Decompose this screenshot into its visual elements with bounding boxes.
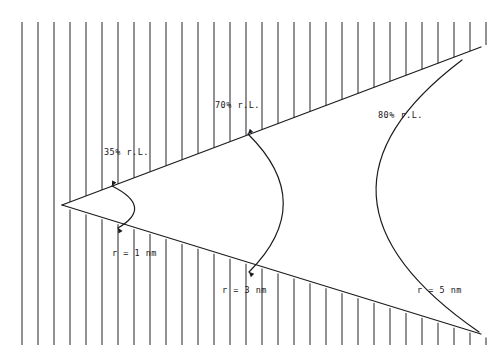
label-percent-70: 70% r.L. — [215, 100, 260, 110]
cone-lower-edge — [62, 205, 481, 334]
label-radius-1: r = 1 nm — [112, 248, 157, 258]
figure-canvas — [0, 0, 496, 363]
label-radius-5: r = 5 nm — [417, 285, 462, 295]
cone-upper-edge — [62, 47, 481, 205]
contour-arc-70 — [248, 134, 283, 272]
label-percent-80: 80% r.L. — [378, 110, 423, 120]
hatch-region-upper — [22, 22, 486, 345]
label-percent-35: 35% r.L. — [104, 147, 149, 157]
label-radius-3: r = 3 nm — [222, 285, 267, 295]
resolution-limit-figure: 35% r.L. 70% r.L. 80% r.L. r = 1 nm r = … — [0, 0, 496, 363]
